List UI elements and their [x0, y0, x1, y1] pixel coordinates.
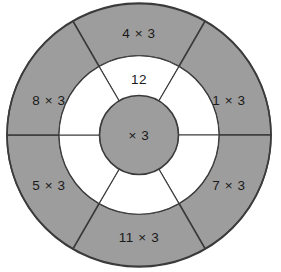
outer-label-lower-left: 5 × 3 — [32, 178, 65, 193]
outer-label-top: 4 × 3 — [122, 26, 155, 41]
outer-label-lower-right: 7 × 3 — [212, 178, 245, 193]
outer-label-bottom: 11 × 3 — [119, 230, 160, 245]
multiplication-wheel-figure: 4 × 3 1 × 3 7 × 3 11 × 3 5 × 3 8 × 3 12 … — [0, 0, 281, 272]
center-hub-label: × 3 — [129, 128, 150, 143]
outer-label-upper-left: 8 × 3 — [32, 93, 65, 108]
wheel-diagram: 4 × 3 1 × 3 7 × 3 11 × 3 5 × 3 8 × 3 12 … — [0, 0, 281, 272]
outer-label-upper-right: 1 × 3 — [212, 93, 245, 108]
inner-label-top: 12 — [131, 72, 147, 87]
